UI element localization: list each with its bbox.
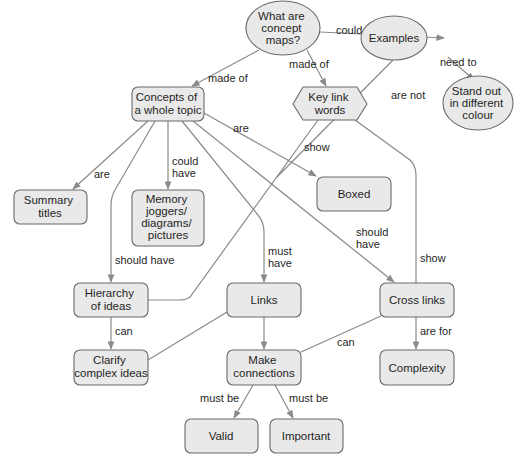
svg-text:Boxed: Boxed	[338, 188, 371, 200]
edge-label: need to	[440, 56, 477, 68]
svg-text:Memory joggers/: Memory joggers/ diagrams/ pictures	[141, 193, 195, 241]
node-valid[interactable]: Valid	[185, 419, 258, 453]
node-examples[interactable]: Examples	[361, 16, 427, 60]
node-clarify[interactable]: Clarify complex ideas	[74, 350, 148, 385]
edge-concepts-boxed[interactable]	[204, 113, 316, 176]
svg-text:Cross links: Cross links	[389, 294, 445, 306]
node-links[interactable]: Links	[227, 283, 301, 317]
edge-label: are for	[420, 325, 452, 337]
svg-text:Complexity: Complexity	[389, 362, 446, 374]
edge-label: must be	[289, 392, 328, 404]
edge-label: show	[304, 141, 330, 153]
svg-text:Hierarchy of ideas: Hierarchy of ideas	[85, 287, 137, 312]
concept-map-canvas: could include need to made of made of ar…	[0, 0, 525, 467]
node-concepts[interactable]: Concepts of a whole topic	[132, 87, 204, 121]
svg-text:Concepts of a whole to: Concepts of a whole topic	[134, 91, 201, 116]
edge-label: are	[94, 168, 110, 180]
edge-label: can	[337, 336, 355, 348]
edge-label: should have	[115, 254, 174, 266]
svg-text:Key link words: Key link words	[308, 91, 351, 116]
node-complexity[interactable]: Complexity	[380, 350, 454, 385]
edge-label: can	[115, 325, 133, 337]
edge-label: are	[233, 122, 249, 134]
node-root[interactable]: What are concept maps?	[246, 1, 320, 55]
edge-label: show	[420, 252, 446, 264]
node-stand-out[interactable]: Stand out in different colour	[443, 76, 513, 130]
node-summary-titles[interactable]: Summary titles	[14, 190, 87, 224]
svg-text:Examples: Examples	[369, 32, 420, 44]
node-important[interactable]: Important	[270, 419, 343, 453]
node-hierarchy[interactable]: Hierarchy of ideas	[74, 283, 148, 317]
edge-label: made of	[208, 72, 249, 84]
edge-links-clarify[interactable]	[148, 312, 227, 360]
node-make-connections[interactable]: Make connections	[227, 350, 301, 385]
svg-text:Valid: Valid	[209, 430, 234, 442]
node-key-link-words[interactable]: Key link words	[293, 87, 367, 120]
edge-label: must be	[200, 392, 239, 404]
node-boxed[interactable]: Boxed	[317, 177, 391, 211]
edge-label: have	[356, 238, 380, 250]
svg-text:Links: Links	[251, 294, 278, 306]
edge-label: have	[172, 167, 196, 179]
edge-label: have	[268, 257, 292, 269]
edge-label: must	[268, 245, 292, 257]
svg-text:Important: Important	[282, 430, 331, 442]
edge-label: should	[356, 226, 388, 238]
node-memory-joggers[interactable]: Memory joggers/ diagrams/ pictures	[132, 190, 204, 246]
edge-label: made of	[289, 58, 330, 70]
edge-concepts-summary[interactable]	[73, 121, 148, 189]
edge-label: could	[172, 155, 198, 167]
node-cross-links[interactable]: Cross links	[380, 283, 454, 317]
edge-label: are not	[391, 89, 425, 101]
